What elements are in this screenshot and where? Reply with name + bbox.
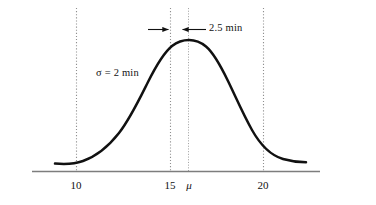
normal-distribution-figure: σ = 2 min 2.5 min 10 15 μ 20 (0, 0, 376, 205)
plot-canvas (0, 0, 376, 205)
normal-curve (55, 40, 306, 164)
spread-annotation-label: 2.5 min (209, 23, 243, 34)
sigma-annotation-label: σ = 2 min (96, 68, 139, 79)
axis-tick-label-10: 10 (71, 180, 82, 191)
axis-tick-label-mu: μ (186, 180, 192, 191)
axis-tick-label-20: 20 (258, 180, 269, 191)
axis-tick-label-15: 15 (165, 180, 176, 191)
